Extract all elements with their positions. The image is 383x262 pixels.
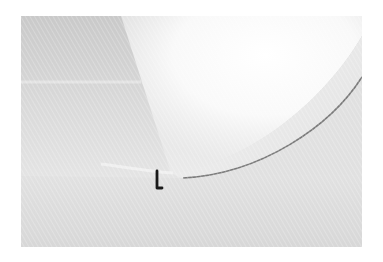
photograph: Abstract monochrome photograph of a whit… [21,16,362,247]
hook-object [21,16,362,247]
